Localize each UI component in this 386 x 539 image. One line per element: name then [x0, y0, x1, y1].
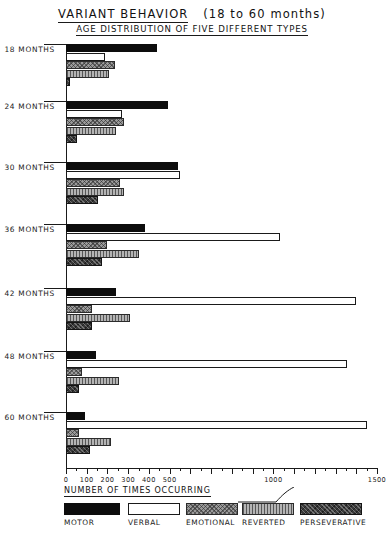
- x-tick-minor: [263, 468, 264, 471]
- x-tick-minor: [222, 468, 223, 471]
- chart-subtitle-text: AGE DISTRIBUTION OF FIVE DIFFERENT TYPES: [76, 24, 308, 36]
- legend-swatch-perseverative: [300, 503, 362, 515]
- x-tick-major: [66, 468, 67, 474]
- chart-title-range: (18 to 60 months): [203, 7, 326, 21]
- bar-verbal: [66, 53, 105, 61]
- x-tick-major: [336, 468, 337, 474]
- x-tick-minor: [159, 468, 160, 471]
- x-tick-minor: [118, 468, 119, 471]
- x-tick-minor: [304, 468, 305, 471]
- age-group-label: 48 MONTHS: [4, 352, 55, 361]
- bar-verbal: [66, 171, 180, 179]
- x-tick-label: 400: [142, 476, 156, 484]
- bar-motor: [66, 162, 178, 170]
- age-group-label: 42 MONTHS: [4, 289, 55, 298]
- bar-motor: [66, 288, 116, 296]
- bar-reverted: [66, 127, 116, 135]
- legend-label-reverted: REVERTED: [242, 518, 294, 527]
- bar-motor: [66, 44, 157, 52]
- bar-perseverative: [66, 196, 98, 204]
- x-tick-label: 200: [101, 476, 115, 484]
- bar-perseverative: [66, 258, 102, 266]
- x-tick-minor: [201, 468, 202, 471]
- bar-emotional: [66, 118, 124, 126]
- bar-reverted: [66, 377, 119, 385]
- x-tick-major: [377, 468, 378, 474]
- legend-item-perseverative: PERSEVERATIVE: [300, 503, 366, 527]
- x-tick-major: [294, 468, 295, 474]
- age-group-48-months: 48 MONTHS: [66, 351, 377, 394]
- plot-area: 18 MONTHS24 MONTHS30 MONTHS36 MONTHS42 M…: [66, 44, 377, 463]
- x-tick-minor: [325, 468, 326, 471]
- age-group-24-months: 24 MONTHS: [66, 101, 377, 144]
- x-tick-minor: [284, 468, 285, 471]
- legend-swatch-reverted: [242, 503, 294, 515]
- chart-title: VARIANT BEHAVIOR (18 to 60 months): [0, 7, 384, 21]
- legend-label-verbal: VERBAL: [128, 518, 180, 527]
- x-tick-major: [211, 468, 212, 474]
- x-tick-label: 500: [163, 476, 177, 484]
- chart-subtitle: AGE DISTRIBUTION OF FIVE DIFFERENT TYPES: [0, 24, 384, 34]
- x-tick-major: [190, 468, 191, 474]
- age-group-label: 36 MONTHS: [4, 225, 55, 234]
- x-tick-minor: [242, 468, 243, 471]
- legend-item-emotional: EMOTIONAL: [186, 503, 238, 527]
- x-tick-major: [128, 468, 129, 474]
- bar-emotional: [66, 61, 115, 69]
- legend-label-motor: MOTOR: [64, 518, 120, 527]
- x-tick-major: [232, 468, 233, 474]
- bar-emotional: [66, 179, 120, 187]
- bar-verbal: [66, 233, 280, 241]
- bar-verbal: [66, 360, 347, 368]
- bar-emotional: [66, 429, 79, 437]
- bar-verbal: [66, 110, 122, 118]
- bar-motor: [66, 351, 96, 359]
- bar-perseverative: [66, 322, 92, 330]
- bar-emotional: [66, 305, 92, 313]
- age-group-18-months: 18 MONTHS: [66, 44, 377, 87]
- x-tick-major: [253, 468, 254, 474]
- bar-perseverative: [66, 135, 77, 143]
- age-group-60-months: 60 MONTHS: [66, 412, 377, 455]
- age-group-label: 30 MONTHS: [4, 163, 55, 172]
- x-tick-minor: [139, 468, 140, 471]
- age-group-label: 18 MONTHS: [4, 45, 55, 54]
- bar-reverted: [66, 70, 109, 78]
- x-tick-minor: [180, 468, 181, 471]
- x-axis-title: NUMBER OF TIMES OCCURRING: [64, 486, 211, 497]
- bar-motor: [66, 101, 168, 109]
- bar-motor: [66, 412, 85, 420]
- legend-label-perseverative: PERSEVERATIVE: [300, 518, 366, 527]
- x-tick-major: [356, 468, 357, 474]
- x-tick-label: 300: [121, 476, 135, 484]
- bar-perseverative: [66, 78, 70, 86]
- legend-item-reverted: REVERTED: [242, 503, 294, 527]
- bar-reverted: [66, 314, 130, 322]
- bar-emotional: [66, 368, 82, 376]
- bar-motor: [66, 224, 145, 232]
- legend-swatch-verbal: [128, 503, 180, 515]
- bar-perseverative: [66, 446, 90, 454]
- legend-item-verbal: VERBAL: [128, 503, 180, 527]
- x-tick-major: [87, 468, 88, 474]
- chart-title-text: VARIANT BEHAVIOR: [58, 7, 188, 23]
- x-axis: [66, 468, 377, 476]
- legend-label-emotional: EMOTIONAL: [186, 518, 238, 527]
- x-tick-major: [273, 468, 274, 474]
- x-tick-label: 1500: [368, 476, 386, 484]
- bar-verbal: [66, 421, 367, 429]
- x-tick-minor: [367, 468, 368, 471]
- bar-emotional: [66, 241, 107, 249]
- bar-reverted: [66, 250, 139, 258]
- x-tick-major: [315, 468, 316, 474]
- legend-swatch-emotional: [186, 503, 238, 515]
- x-tick-minor: [346, 468, 347, 471]
- x-tick-minor: [76, 468, 77, 471]
- legend-swatch-motor: [64, 503, 120, 515]
- x-tick-label: 1000: [264, 476, 282, 484]
- x-tick-label: 0: [64, 476, 69, 484]
- age-group-36-months: 36 MONTHS: [66, 224, 377, 267]
- x-tick-major: [107, 468, 108, 474]
- chart-legend: MOTORVERBALEMOTIONALREVERTEDPERSEVERATIV…: [0, 503, 384, 537]
- age-group-label: 60 MONTHS: [4, 413, 55, 422]
